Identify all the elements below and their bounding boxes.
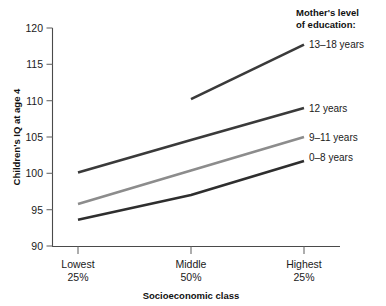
series-label-13-18-years: 13–18 years: [309, 39, 364, 50]
series-label-12-years: 12 years: [309, 103, 347, 114]
legend-title-line1: Mother's level: [296, 7, 359, 18]
legend-title: Mother's level of education:: [296, 7, 359, 30]
iq-socioeconomic-line-chart: 120 115 110 105 100 95 90 Children's IQ …: [0, 0, 386, 306]
x-label-middle-top: Middle: [176, 258, 207, 270]
y-axis-title: Children's IQ at age 4: [11, 88, 22, 185]
y-tick-label-120: 120: [25, 22, 43, 34]
x-label-highest-bottom: 25%: [293, 271, 314, 283]
series-line-13-18-years: [191, 45, 304, 99]
legend-title-line2: of education:: [296, 19, 356, 30]
x-label-middle-bottom: 50%: [180, 271, 201, 283]
x-label-lowest-bottom: 25%: [67, 271, 88, 283]
x-axis-title: Socioeconomic class: [143, 290, 240, 301]
x-label-highest-top: Highest: [286, 258, 322, 270]
y-tick-label-90: 90: [31, 240, 43, 252]
axes-group: [47, 28, 341, 254]
series-layer: [78, 45, 304, 220]
y-tick-label-95: 95: [31, 204, 43, 216]
y-tick-labels: 120 115 110 105 100 95 90: [25, 22, 43, 252]
chart-canvas: 120 115 110 105 100 95 90 Children's IQ …: [0, 0, 386, 306]
y-tick-label-100: 100: [25, 167, 43, 179]
x-tick-labels: Lowest 25% Middle 50% Highest 25%: [61, 258, 322, 283]
y-tick-label-110: 110: [26, 95, 43, 107]
series-line-12-years: [78, 108, 304, 173]
series-label-0-8-years: 0–8 years: [309, 152, 353, 163]
y-tick-label-115: 115: [26, 58, 43, 70]
series-labels: 13–18 years 12 years 9–11 years 0–8 year…: [309, 39, 364, 163]
x-label-lowest-top: Lowest: [61, 258, 94, 270]
series-label-9-11-years: 9–11 years: [309, 132, 358, 143]
y-tick-label-105: 105: [25, 131, 43, 143]
